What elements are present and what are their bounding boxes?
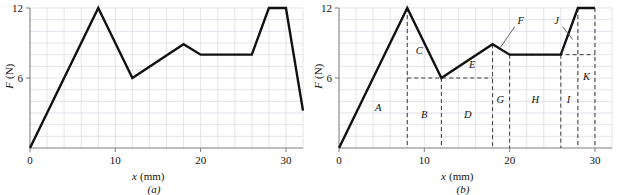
y-tick-label: 6 xyxy=(18,72,24,84)
chart-panel-b: ABCDEFGHIJK 0102030612 x (mm) F (N) (b) xyxy=(309,0,617,195)
x-axis-label-unit-a: (mm) xyxy=(140,170,165,183)
figure-container: 0102030612 x (mm) F (N) (a) ABCDEFGHIJK xyxy=(0,0,617,195)
chart-b-canvas: ABCDEFGHIJK 0102030612 x (mm) F (N) (b) xyxy=(309,0,617,195)
chart-a-canvas: 0102030612 x (mm) F (N) (a) xyxy=(0,0,308,195)
y-axis-label-group-a: F (N) xyxy=(3,63,16,89)
region-label-I: I xyxy=(566,94,571,105)
axis-ticks-b xyxy=(335,8,595,152)
x-tick-label: 10 xyxy=(110,154,122,166)
x-tick-label: 30 xyxy=(280,154,292,166)
x-tick-label: 0 xyxy=(27,154,33,166)
region-label-K: K xyxy=(582,71,591,82)
y-axis-label-variable-a: F xyxy=(3,82,15,90)
x-tick-label: 0 xyxy=(336,154,342,166)
region-label-E: E xyxy=(468,59,476,70)
y-tick-label: 12 xyxy=(12,2,23,14)
x-axis-label-unit-b: (mm) xyxy=(449,170,474,183)
region-label-J: J xyxy=(554,15,560,26)
chart-b-svg: ABCDEFGHIJK 0102030612 x (mm) F (N) (b) xyxy=(309,0,617,195)
chart-panel-a: 0102030612 x (mm) F (N) (a) xyxy=(0,0,308,195)
x-tick-label: 20 xyxy=(195,154,207,166)
x-axis-label-variable-b: x xyxy=(440,170,446,182)
x-axis-label-variable-a: x xyxy=(131,170,137,182)
x-tick-label: 10 xyxy=(419,154,431,166)
tick-labels-b: 0102030612 xyxy=(321,2,601,166)
x-tick-label: 20 xyxy=(504,154,516,166)
region-label-C: C xyxy=(416,45,424,56)
leader-line xyxy=(500,27,515,48)
x-tick-label: 30 xyxy=(589,154,601,166)
panel-caption-a: (a) xyxy=(148,183,161,195)
y-axis-label-variable-b: F xyxy=(312,82,324,90)
region-label-G: G xyxy=(496,94,504,105)
region-label-D: D xyxy=(463,109,472,120)
axis-ticks-a xyxy=(26,8,286,152)
leader-lines-b xyxy=(500,27,573,48)
region-label-B: B xyxy=(421,109,428,120)
region-label-F: F xyxy=(517,15,525,26)
y-axis-label-group-b: F (N) xyxy=(312,63,325,89)
region-label-A: A xyxy=(374,102,382,113)
chart-a-svg: 0102030612 x (mm) F (N) (a) xyxy=(0,0,308,195)
y-axis-label-unit-a: (N) xyxy=(3,63,16,79)
y-tick-label: 6 xyxy=(327,72,333,84)
panel-caption-b: (b) xyxy=(457,183,470,195)
tick-labels-a: 0102030612 xyxy=(12,2,292,166)
region-label-H: H xyxy=(530,94,540,105)
y-tick-label: 12 xyxy=(321,2,332,14)
y-axis-label-unit-b: (N) xyxy=(312,63,325,79)
